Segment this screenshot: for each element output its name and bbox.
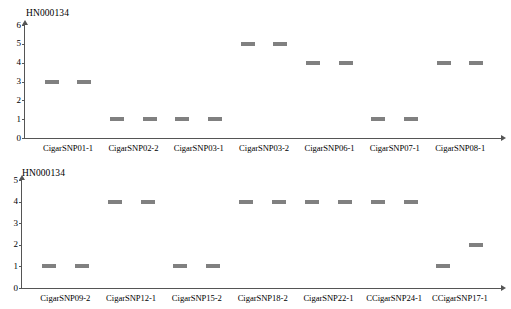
plot-area-top — [24, 25, 501, 138]
data-marker — [208, 117, 222, 121]
data-marker — [143, 117, 157, 121]
data-marker — [77, 80, 91, 84]
data-marker — [371, 117, 385, 121]
y-tick-label: 1 — [4, 262, 18, 271]
data-marker — [469, 243, 483, 247]
x-axis-category-label: CigarSNP08-1 — [420, 144, 500, 153]
y-tick-label: 5 — [4, 176, 18, 185]
y-tick-label: 3 — [4, 219, 18, 228]
x-axis-line-bottom — [21, 288, 501, 289]
y-tick-label: 3 — [7, 77, 21, 86]
data-marker — [404, 200, 418, 204]
data-marker — [75, 264, 89, 268]
data-marker — [273, 42, 287, 46]
data-marker — [306, 61, 320, 65]
data-marker — [437, 61, 451, 65]
y-tick-label: 1 — [7, 115, 21, 124]
y-tick-label: 0 — [7, 134, 21, 143]
y-tick-label: 2 — [4, 240, 18, 249]
data-marker — [141, 200, 155, 204]
chart-panel-bottom: HN000134 012345 CigarSNP09-2CigarSNP12-1… — [0, 158, 511, 309]
data-marker — [239, 200, 253, 204]
plot-area-bottom — [21, 180, 501, 288]
chart-panel-top: HN000134 0123456 CigarSNP01-1CigarSNP02-… — [0, 0, 511, 158]
data-marker — [371, 200, 385, 204]
data-marker — [436, 264, 450, 268]
y-tick-mark — [19, 288, 22, 289]
data-marker — [241, 42, 255, 46]
y-tick-label: 4 — [7, 58, 21, 67]
data-marker — [305, 200, 319, 204]
chart-title-top: HN000134 — [26, 8, 69, 18]
data-marker — [42, 264, 56, 268]
x-axis-line-top — [24, 138, 501, 139]
data-marker — [338, 200, 352, 204]
data-marker — [206, 264, 220, 268]
y-tick-label: 2 — [7, 96, 21, 105]
data-marker — [272, 200, 286, 204]
data-marker — [339, 61, 353, 65]
y-tick-label: 0 — [4, 284, 18, 293]
y-tick-label: 6 — [7, 21, 21, 30]
figure-container: HN000134 0123456 CigarSNP01-1CigarSNP02-… — [0, 0, 511, 309]
data-marker — [175, 117, 189, 121]
x-axis-arrow-bottom — [501, 285, 506, 291]
chart-title-bottom: HN000134 — [22, 168, 65, 178]
y-tick-label: 5 — [7, 39, 21, 48]
data-marker — [108, 200, 122, 204]
y-tick-mark — [22, 138, 25, 139]
data-marker — [469, 61, 483, 65]
data-marker — [110, 117, 124, 121]
data-marker — [173, 264, 187, 268]
data-marker — [404, 117, 418, 121]
x-axis-category-label: CCigarSNP17-1 — [420, 294, 500, 303]
y-tick-label: 4 — [4, 197, 18, 206]
x-axis-arrow-top — [501, 135, 506, 141]
data-marker — [45, 80, 59, 84]
